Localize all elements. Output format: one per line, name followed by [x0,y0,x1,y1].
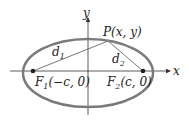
focus-f1-point [31,69,36,74]
focus-f2-point [141,69,146,74]
d1-segment [33,41,108,71]
d1-label: d1 [52,45,65,61]
x-axis-label: x [173,64,180,78]
point-p [107,40,110,43]
focus-f1-label: F1(−c, 0) [34,75,90,91]
point-p-label: P(x, y) [102,25,142,39]
focus-f2-label: F2(c, 0) [106,75,152,91]
ellipse-diagram: y x P(x, y) d1 d2 F1(−c, 0) F2(c, 0) [0,0,189,120]
y-axis-label: y [82,6,90,20]
d2-label: d2 [112,52,125,68]
